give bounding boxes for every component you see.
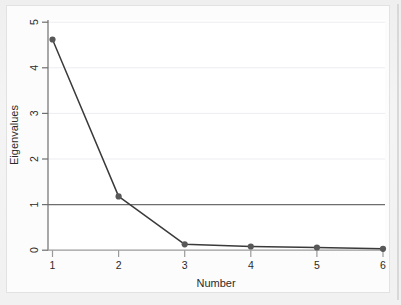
data-point-4[interactable]: [248, 243, 254, 249]
scree-plot-figure: 5 4 3 2 1 0 1 2 3 4 5 6 Eigenvalues Numb…: [0, 0, 401, 305]
y-tick-label-5: 5: [28, 19, 40, 25]
x-tick-label-1: 1: [50, 259, 56, 271]
x-tick-label-3: 3: [182, 259, 188, 271]
x-tick-labels: 1 2 3 4 5 6: [50, 259, 387, 271]
chart-svg: 5 4 3 2 1 0 1 2 3 4 5 6 Eigenvalues Numb…: [0, 0, 401, 305]
y-tick-label-3: 3: [28, 110, 40, 116]
y-tick-label-0: 0: [28, 247, 40, 253]
x-tick-label-4: 4: [248, 259, 254, 271]
plot-panel: [48, 20, 385, 251]
y-tick-label-1: 1: [28, 202, 40, 208]
data-point-6[interactable]: [380, 246, 386, 252]
x-tick-label-5: 5: [314, 259, 320, 271]
data-point-5[interactable]: [314, 244, 320, 250]
y-tick-marks: [42, 22, 48, 250]
data-point-1[interactable]: [49, 36, 55, 42]
x-tick-label-6: 6: [380, 259, 386, 271]
data-point-2[interactable]: [116, 193, 122, 199]
x-axis-title: Number: [196, 277, 235, 289]
x-tick-marks: [53, 250, 384, 257]
y-axis-title: Eigenvalues: [8, 105, 20, 165]
y-tick-label-4: 4: [28, 65, 40, 71]
y-tick-label-2: 2: [28, 156, 40, 162]
data-point-3[interactable]: [182, 241, 188, 247]
plot-region: 5 4 3 2 1 0 1 2 3 4 5 6 Eigenvalues Numb…: [0, 0, 401, 305]
x-tick-label-2: 2: [116, 259, 122, 271]
y-tick-labels: 5 4 3 2 1 0: [28, 19, 40, 253]
